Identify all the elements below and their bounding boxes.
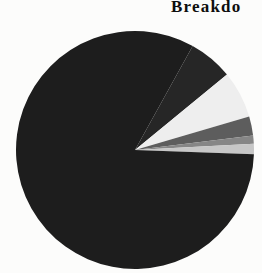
pie-chart	[0, 0, 262, 273]
chart-canvas: Breakdo	[0, 0, 262, 273]
